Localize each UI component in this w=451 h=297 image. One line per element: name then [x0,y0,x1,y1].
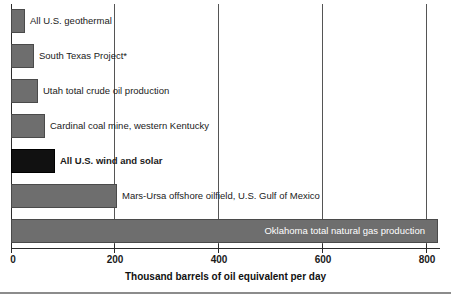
bar-chart: All U.S. geothermal South Texas Project*… [0,0,451,297]
bar-utah-total-crude-oil-production[interactable] [11,79,38,103]
bar-cardinal-coal-mine[interactable] [11,114,45,138]
x-tick-mark-200 [114,244,115,253]
bar-all-us-wind-and-solar[interactable] [11,149,55,173]
x-tick-mark-600 [322,244,323,253]
x-tick-label-0: 0 [10,254,16,265]
x-tick-mark-800 [426,244,427,253]
bar-label-south-texas-project: South Texas Project* [39,44,127,68]
bar-row: Oklahoma total natural gas production [0,219,451,243]
bar-row: Cardinal coal mine, western Kentucky [0,114,451,138]
bar-mars-ursa-offshore-oilfield[interactable] [11,184,117,208]
bottom-divider [0,292,451,294]
bar-label-all-us-geothermal: All U.S. geothermal [30,9,112,33]
x-axis-line [11,248,440,249]
bar-label-utah-total-crude-oil-production: Utah total crude oil production [43,79,169,103]
bar-row: Mars-Ursa offshore oilfield, U.S. Gulf o… [0,184,451,208]
bar-label-mars-ursa-offshore-oilfield: Mars-Ursa offshore oilfield, U.S. Gulf o… [122,184,320,208]
x-tick-label-800: 800 [419,254,436,265]
x-axis-title: Thousand barrels of oil equivalent per d… [0,271,451,282]
x-tick-mark-400 [218,244,219,253]
bar-label-cardinal-coal-mine: Cardinal coal mine, western Kentucky [50,114,209,138]
bar-row: Utah total crude oil production [0,79,451,103]
bar-south-texas-project[interactable] [11,44,34,68]
bar-label-all-us-wind-and-solar: All U.S. wind and solar [60,149,162,173]
bar-row: All U.S. geothermal [0,9,451,33]
x-tick-label-400: 400 [211,254,228,265]
bar-label-oklahoma-total-natural-gas-production: Oklahoma total natural gas production [0,219,432,243]
bar-row: All U.S. wind and solar [0,149,451,173]
plot-area: All U.S. geothermal South Texas Project*… [0,0,451,248]
x-tick-label-200: 200 [107,254,124,265]
bar-all-us-geothermal[interactable] [11,9,25,33]
x-tick-label-600: 600 [315,254,332,265]
x-tick-mark-0 [11,244,12,253]
bar-row: South Texas Project* [0,44,451,68]
